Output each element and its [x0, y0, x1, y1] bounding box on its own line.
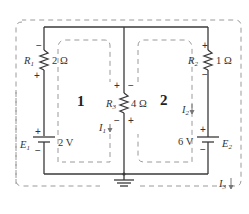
loop-1-label: 1 [77, 93, 85, 109]
resistor-r2 [204, 50, 212, 70]
e2-value: 6 V [178, 136, 194, 147]
r1-value: 2 Ω [52, 55, 68, 66]
e1-top-sign: + [35, 126, 41, 137]
e2-name: E2 [221, 138, 232, 151]
i1-label: I1 [98, 122, 106, 135]
circuit-wires [33, 27, 219, 186]
r3-top-right-sign: − [128, 80, 134, 91]
r1-name: R1 [23, 55, 34, 68]
r1-bottom-sign: + [34, 70, 40, 81]
i3-label: I3 [218, 178, 227, 191]
r2-value: 1 Ω [216, 55, 232, 66]
r3-bottom-left-sign: − [114, 115, 120, 126]
ground-icon [114, 180, 134, 186]
e1-value: 2 V [58, 137, 74, 148]
r3-value: 4 Ω [131, 98, 147, 109]
i2-arrow-icon [190, 104, 194, 114]
r2-bottom-sign: − [202, 69, 208, 80]
resistor-r3 [120, 93, 128, 113]
i3-arrow-icon [229, 178, 233, 189]
r1-top-sign: − [36, 40, 42, 51]
r3-bottom-right-sign: + [128, 115, 134, 126]
r2-top-sign: + [202, 40, 208, 51]
e2-bottom-sign: − [200, 144, 206, 155]
e2-top-sign: + [200, 124, 206, 135]
circuit-diagram: − + R1 2 Ω + − R2 1 Ω + − − + R3 4 Ω + −… [0, 0, 249, 214]
r3-name: R3 [105, 98, 116, 111]
resistor-r1 [40, 50, 48, 70]
r2-name: R2 [187, 55, 198, 68]
r3-top-left-sign: + [114, 80, 120, 91]
e1-bottom-sign: − [35, 145, 41, 156]
e1-name: E1 [19, 139, 30, 152]
i2-label: I2 [181, 104, 190, 117]
loop-2-label: 2 [160, 92, 168, 108]
i1-arrow-icon [108, 124, 112, 132]
